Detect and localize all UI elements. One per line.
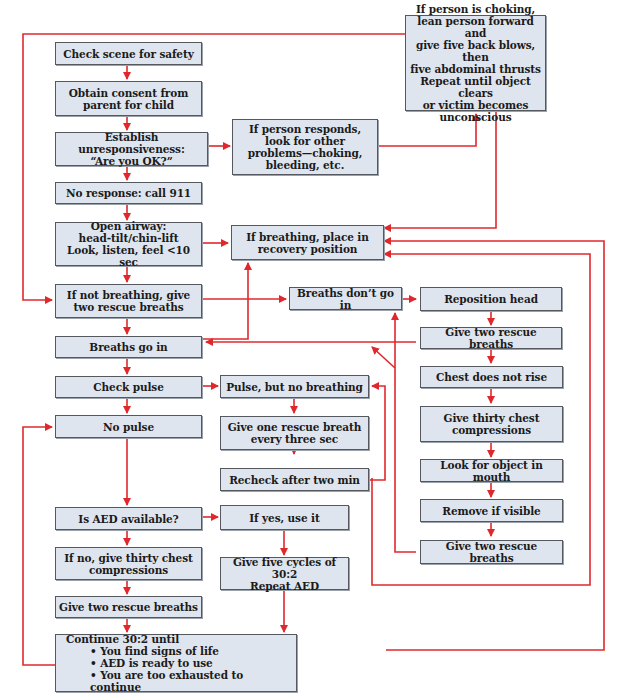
node-if-person-responds: If person responds, look for other probl…	[232, 119, 378, 175]
node-look-for-object: Look for object in mouth	[420, 459, 563, 482]
node-check-scene: Check scene for safety	[55, 42, 202, 65]
node-breaths-dont-go-in: Breaths don’t go in	[289, 287, 402, 310]
node-recheck-two-min: Recheck after two min	[220, 468, 369, 491]
node-one-breath-every-three-sec: Give one rescue breath every three sec	[220, 416, 369, 450]
node-choking: If person is choking, lean person forwar…	[405, 15, 546, 111]
continue-condition: AED is ready to use	[90, 657, 293, 669]
continue-condition: You are too exhausted to continue	[90, 669, 293, 693]
continue-conditions-list: You find signs of life AED is ready to u…	[66, 645, 293, 693]
node-obtain-consent: Obtain consent from parent for child	[55, 81, 202, 116]
node-chest-does-not-rise: Chest does not rise	[420, 366, 563, 388]
node-give-two-rescue-breaths-left: Give two rescue breaths	[55, 596, 202, 618]
node-establish-unresponsiveness: Establish unresponsiveness: “Are you OK?…	[55, 132, 208, 166]
node-pulse-no-breathing: Pulse, but no breathing	[220, 375, 369, 398]
node-continue-30-2: Continue 30:2 until You find signs of li…	[55, 634, 297, 692]
node-five-cycles-repeat-aed: Give five cycles of 30:2 Repeat AED	[220, 557, 349, 590]
node-no-response-call-911: No response: call 911	[55, 182, 202, 204]
node-give-two-rescue-breaths-bottom-right: Give two rescue breaths	[420, 540, 563, 564]
node-no-pulse: No pulse	[55, 415, 202, 438]
node-recovery-position: If breathing, place in recovery position	[231, 225, 384, 260]
node-check-pulse: Check pulse	[55, 376, 202, 398]
node-remove-if-visible: Remove if visible	[420, 499, 563, 522]
node-reposition-head: Reposition head	[420, 287, 562, 311]
cpr-flowchart: Check scene for safety Obtain consent fr…	[0, 0, 622, 700]
node-open-airway: Open airway: head-tilt/chin-lift Look, l…	[55, 222, 202, 266]
node-is-aed-available: Is AED available?	[55, 507, 202, 530]
node-thirty-compressions-right: Give thirty chest compressions	[420, 406, 563, 442]
node-if-not-breathing: If not breathing, give two rescue breath…	[55, 284, 202, 318]
node-give-two-rescue-breaths-right: Give two rescue breaths	[420, 327, 562, 349]
node-if-no-compressions: If no, give thirty chest compressions	[55, 547, 202, 580]
node-if-yes-use-it: If yes, use it	[220, 505, 349, 530]
node-breaths-go-in: Breaths go in	[55, 336, 202, 358]
continue-condition: You find signs of life	[90, 645, 293, 657]
